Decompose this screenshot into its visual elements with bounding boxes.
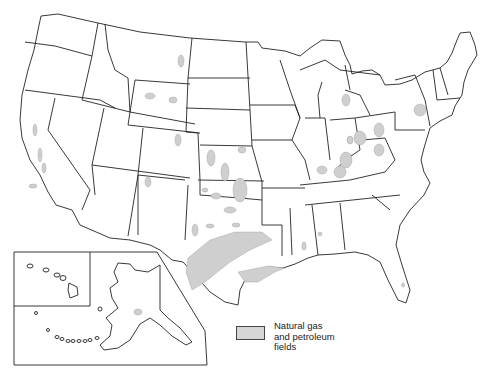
inset-hawaii-alaska [14,252,207,365]
legend-label: Natural gas and petroleum fields [274,321,335,353]
us-map [0,0,491,376]
legend-swatch-fields [236,326,265,340]
